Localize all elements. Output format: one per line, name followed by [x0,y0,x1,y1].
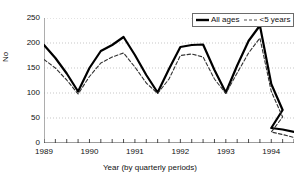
x-tick-1990: 1990 [69,147,109,156]
y-tick-100: 100 [14,89,40,97]
y-tick-200: 200 [14,39,40,47]
y-tick-150: 150 [14,64,40,72]
legend-item-all-ages: All ages [196,15,239,24]
y-axis-title: No [1,52,10,62]
legend-label-under-5-years: <5 years [259,15,290,24]
y-tick-0: 0 [14,139,40,147]
y-tick-250: 250 [14,14,40,22]
data-series [44,26,294,138]
chart-figure: No 250 200 150 100 50 0 1989199019911992… [0,0,300,181]
x-tick-1989: 1989 [24,147,64,156]
x-tick-1991: 1991 [115,147,155,156]
chart-legend: All ages <5 years [192,13,294,27]
x-tick-1993: 1993 [206,147,246,156]
x-tick-1994: 1994 [251,147,291,156]
x-minor-ticks [44,139,294,143]
plot-svg [44,18,294,143]
legend-label-all-ages: All ages [211,15,239,24]
axis-lines [44,18,294,143]
series-line-under-5-years [44,38,294,138]
x-tick-1992: 1992 [160,147,200,156]
legend-item-under-5-years: <5 years [244,15,290,24]
solid-line-swatch-icon [196,16,209,24]
dashed-line-swatch-icon [244,16,257,24]
x-axis-title: Year (by quarterly periods) [0,163,300,172]
plot-area [44,18,294,143]
y-tick-50: 50 [14,114,40,122]
